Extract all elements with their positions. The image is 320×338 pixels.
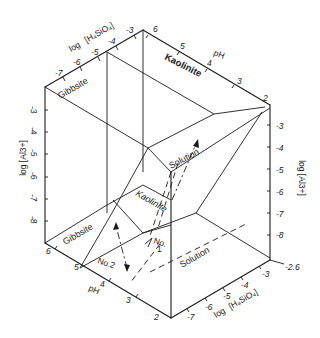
al-left-tick: -6 — [28, 171, 39, 180]
region-kaolinite-top: Kaolinite — [163, 51, 204, 79]
h4sio4-top-tick: -6 — [73, 57, 81, 67]
svg-text:log: log — [212, 305, 227, 319]
ph-bottom-tick: 3 — [126, 295, 131, 305]
lower-surfaces — [45, 163, 270, 283]
region-gibbsite-bottom: Gibbsite — [61, 222, 95, 247]
al-right-tick: -5 — [276, 165, 284, 175]
al-right-tick: -6 — [276, 187, 284, 197]
ph-top-tick: 4 — [207, 58, 212, 68]
al-left-tick: -3 — [28, 105, 39, 114]
h4sio4-bottom-axis-label: log [H₄SiO₄] — [212, 287, 259, 320]
arrow-up-icon — [113, 222, 119, 230]
ph-top-tick: 6 — [153, 24, 158, 34]
ph-bottom-tick: 5 — [74, 262, 79, 272]
h4sio4-bottom-tick: -5 — [223, 291, 231, 301]
al-right-axis-label: log [Al3+] — [297, 160, 307, 196]
ph-bottom-tick: 6 — [46, 246, 51, 256]
al-left-axis-label: log [Al3+] — [18, 140, 28, 176]
al-right-tick: -3 — [276, 121, 284, 131]
al-right-tick: -8 — [276, 230, 284, 240]
al-left-tick: -4 — [28, 126, 39, 135]
h4sio4-bottom-tick: -7 — [187, 312, 195, 322]
h4sio4-bottom-tick: -4 — [241, 280, 249, 290]
svg-text:log: log — [67, 39, 82, 53]
ph-top-tick: 2 — [262, 93, 268, 103]
h4sio4-bottom-tick: -3 — [262, 269, 270, 279]
corner-value: -2.6 — [285, 262, 300, 272]
h4sio4-top-tick: -3 — [126, 25, 134, 35]
al-left-tick: -7 — [28, 193, 39, 202]
arrow-down-icon — [124, 264, 130, 272]
h4sio4-top-tick: -4 — [108, 36, 116, 46]
al-right-tick: -4 — [276, 143, 284, 153]
h4sio4-top-tick: -5 — [91, 47, 99, 57]
svg-text:[H₄SiO₄]: [H₄SiO₄] — [227, 287, 260, 312]
al-left-tick: -5 — [28, 148, 39, 157]
region-solution-mid: Solution — [167, 147, 200, 171]
path-no1-label-number: 1 — [157, 244, 162, 254]
region-solution-bottom: Solution — [178, 245, 211, 270]
al-right-tick: -7 — [276, 209, 284, 219]
path-no2-label: No.2 — [96, 255, 116, 270]
cube-frame — [45, 30, 270, 318]
ph-top-tick: 3 — [237, 76, 242, 86]
ph-top-tick: 5 — [180, 41, 185, 51]
al-left-tick: -8 — [28, 215, 39, 224]
ph-top-axis-label: pH — [212, 48, 226, 61]
ph-bottom-tick: 2 — [153, 312, 159, 322]
h4sio4-top-tick: -7 — [55, 68, 63, 78]
region-kaolinite-mid: Kaolinite — [134, 188, 169, 214]
region-gibbsite-top: Gibbsite — [56, 76, 90, 101]
stability-cube-diagram: -7 -6 -5 -4 -3 log [H₄SiO₄] 6 5 4 3 2 pH… — [0, 0, 320, 338]
